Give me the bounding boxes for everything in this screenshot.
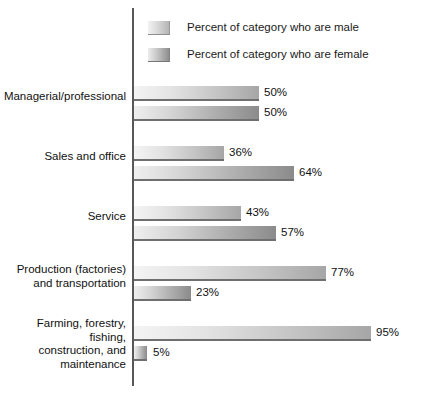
bar-chart: Percent of category who are male Percent… [0,0,438,401]
chart-legend: Percent of category who are male Percent… [148,14,428,68]
category-label-service: Service [0,210,126,224]
legend-swatch-male-icon [148,21,170,35]
bar-value-production-female: 23% [196,285,219,299]
bar-value-farming-male: 95% [376,325,399,339]
category-label-managerial: Managerial/professional [0,90,126,104]
plot-area: Managerial/professional 50% 50% Sales an… [0,74,438,386]
bar-managerial-male[interactable] [134,86,259,101]
bar-service-male[interactable] [134,206,241,221]
bar-service-female[interactable] [134,226,276,241]
category-label-sales: Sales and office [0,150,126,164]
bar-production-female[interactable] [134,286,191,301]
bar-value-service-female: 57% [281,225,304,239]
bar-sales-female[interactable] [134,166,294,181]
bar-farming-male[interactable] [134,326,371,341]
bar-value-managerial-female: 50% [264,105,287,119]
legend-swatch-female-icon [148,48,170,62]
bar-value-farming-female: 5% [153,345,170,359]
bar-value-service-male: 43% [246,205,269,219]
legend-label-male: Percent of category who are male [187,21,359,34]
bar-sales-male[interactable] [134,146,224,161]
legend-label-female: Percent of category who are female [187,48,369,61]
bar-farming-female[interactable] [134,346,147,361]
category-label-production: Production (factories) and transportatio… [0,263,126,290]
legend-item-female[interactable]: Percent of category who are female [148,41,428,68]
bar-value-production-male: 77% [331,265,354,279]
bar-value-managerial-male: 50% [264,85,287,99]
bar-value-sales-female: 64% [299,165,322,179]
legend-item-male[interactable]: Percent of category who are male [148,14,428,41]
bar-managerial-female[interactable] [134,106,259,121]
bar-production-male[interactable] [134,266,326,281]
category-label-farming: Farming, forestry, fishing, construction… [0,317,126,371]
bar-value-sales-male: 36% [229,145,252,159]
